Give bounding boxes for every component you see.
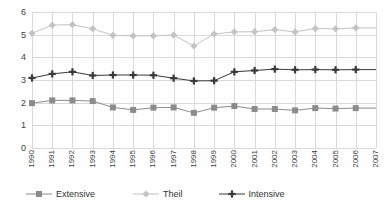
data-point-theil xyxy=(291,28,298,35)
legend-item-theil[interactable]: Theil xyxy=(133,189,183,199)
data-point-theil xyxy=(332,25,339,32)
x-tick-label: 2003 xyxy=(291,150,299,168)
y-tick-label: 5 xyxy=(21,30,26,39)
data-point-theil xyxy=(109,32,116,39)
data-point-intensive xyxy=(231,68,238,75)
data-point-intensive xyxy=(271,66,278,73)
data-point-theil xyxy=(231,28,238,35)
data-point-theil xyxy=(271,26,278,33)
x-axis-labels: 1990199119921993199419951996199719981999… xyxy=(32,150,376,184)
gridline-x-2007 xyxy=(376,12,377,148)
data-point-theil xyxy=(130,32,137,39)
x-tick-label: 1991 xyxy=(48,150,56,168)
x-tick-label: 1999 xyxy=(210,150,218,168)
y-tick-label: 6 xyxy=(21,8,26,17)
data-point-intensive xyxy=(251,67,258,74)
data-point-intensive xyxy=(190,77,197,84)
data-point-intensive xyxy=(130,71,137,78)
series-line-theil xyxy=(32,25,376,46)
data-point-intensive xyxy=(211,77,218,84)
data-point-intensive xyxy=(291,66,298,73)
data-point-extensive xyxy=(231,103,237,109)
data-point-extensive xyxy=(69,97,75,103)
plot-area xyxy=(32,12,376,148)
gridline-y-0 xyxy=(32,148,376,149)
y-tick-label: 4 xyxy=(21,53,26,62)
legend-label: Theil xyxy=(163,189,183,199)
data-point-intensive xyxy=(89,72,96,79)
x-tick-label: 1990 xyxy=(28,150,36,168)
data-point-intensive xyxy=(150,72,157,79)
x-tick-label: 1996 xyxy=(149,150,157,168)
data-point-theil xyxy=(170,32,177,39)
legend-marker-plus-icon xyxy=(219,189,245,199)
legend-label: Extensive xyxy=(56,189,95,199)
x-tick-label: 2004 xyxy=(311,150,319,168)
chart-legend: ExtensiveTheilIntensive xyxy=(26,186,366,202)
series-line-extensive xyxy=(32,100,376,113)
data-point-intensive xyxy=(109,71,116,78)
data-point-extensive xyxy=(333,106,339,112)
legend-marker-square-icon xyxy=(26,189,52,199)
series-line-intensive xyxy=(32,69,376,81)
legend-marker-diamond-icon xyxy=(133,189,159,199)
data-point-extensive xyxy=(292,107,298,113)
data-point-intensive xyxy=(49,70,56,77)
data-point-extensive xyxy=(272,106,278,112)
y-tick-label: 2 xyxy=(21,98,26,107)
data-point-theil xyxy=(211,30,218,37)
data-point-extensive xyxy=(191,110,197,116)
y-tick-label: 1 xyxy=(21,121,26,130)
x-tick-label: 1997 xyxy=(170,150,178,168)
y-tick-label: 3 xyxy=(21,76,26,85)
x-tick-label: 1992 xyxy=(68,150,76,168)
data-point-extensive xyxy=(252,106,258,112)
data-point-intensive xyxy=(352,66,359,73)
chart-container: 0123456 19901991199219931994199519961997… xyxy=(0,0,388,212)
data-point-theil xyxy=(49,22,56,29)
data-point-extensive xyxy=(312,105,318,111)
data-point-theil xyxy=(251,28,258,35)
data-point-intensive xyxy=(312,66,319,73)
data-point-theil xyxy=(312,25,319,32)
data-series-layer xyxy=(32,12,376,148)
x-tick-label: 2005 xyxy=(332,150,340,168)
data-point-extensive xyxy=(49,97,55,103)
x-tick-label: 1998 xyxy=(190,150,198,168)
data-point-extensive xyxy=(29,100,35,106)
x-tick-label: 1993 xyxy=(89,150,97,168)
data-point-extensive xyxy=(211,105,217,111)
data-point-intensive xyxy=(332,66,339,73)
x-tick-label: 2001 xyxy=(251,150,259,168)
x-tick-label: 2000 xyxy=(230,150,238,168)
x-tick-label: 2002 xyxy=(271,150,279,168)
y-tick-label: 0 xyxy=(21,144,26,153)
y-axis-labels: 0123456 xyxy=(0,12,30,148)
data-point-theil xyxy=(352,24,359,31)
legend-item-extensive[interactable]: Extensive xyxy=(26,189,95,199)
data-point-extensive xyxy=(130,107,136,113)
data-point-extensive xyxy=(150,105,156,111)
legend-item-intensive[interactable]: Intensive xyxy=(219,189,285,199)
data-point-extensive xyxy=(90,98,96,104)
data-point-theil xyxy=(150,32,157,39)
data-point-intensive xyxy=(69,68,76,75)
data-point-theil xyxy=(190,42,197,49)
data-point-theil xyxy=(69,21,76,28)
data-point-intensive xyxy=(170,75,177,82)
x-tick-label: 2007 xyxy=(372,150,380,168)
data-point-extensive xyxy=(110,104,116,110)
data-point-extensive xyxy=(353,105,359,111)
x-tick-label: 1994 xyxy=(109,150,117,168)
x-tick-label: 2006 xyxy=(352,150,360,168)
data-point-theil xyxy=(89,25,96,32)
data-point-extensive xyxy=(171,104,177,110)
x-tick-label: 1995 xyxy=(129,150,137,168)
legend-label: Intensive xyxy=(249,189,285,199)
